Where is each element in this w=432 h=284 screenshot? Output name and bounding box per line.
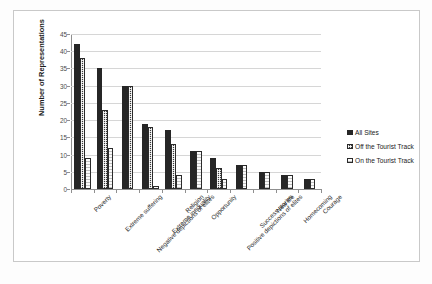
y-tick-label: 25 [45,99,67,106]
x-category-label: Extreme inequality [170,193,212,235]
bar [176,175,182,189]
legend-item[interactable]: On the Tourist Track [347,157,432,164]
legend-swatch-icon [347,144,353,150]
legend-item[interactable]: Off the Tourist Track [347,143,432,150]
y-tick-mark [67,68,70,69]
y-tick-mark [67,120,70,121]
legend-item[interactable]: All Sites [347,129,432,136]
y-tick-label: 0 [45,186,67,193]
bar-group [162,34,185,189]
y-tick-label: 45 [45,31,67,38]
bar-group [185,34,208,189]
bar [222,179,228,189]
y-tick-mark [67,189,70,190]
x-category-label: Positive depictions of elites [245,193,303,251]
x-category-label: Poverty [93,193,113,213]
x-category-label: Extreme suffering [123,193,163,233]
bar [310,179,316,189]
legend-label: On the Tourist Track [355,157,414,164]
x-axis-category-labels: PovertyExtreme sufferingNegative depicti… [71,193,321,265]
legend-swatch-icon [347,130,353,136]
chart-legend: All SitesOff the Tourist TrackOn the Tou… [347,129,432,171]
bar-group [276,34,299,189]
bar [108,148,114,189]
bar-group [94,34,117,189]
y-tick-mark [67,137,70,138]
bar-group [253,34,276,189]
bar [287,175,293,189]
y-tick-label: 10 [45,151,67,158]
bar-groups [71,34,321,189]
chart-frame: Number of Representations 05101520253035… [13,10,420,262]
bar-group [71,34,94,189]
legend-label: Off the Tourist Track [355,143,414,150]
y-tick-label: 40 [45,48,67,55]
bar [242,165,248,189]
legend-label: All Sites [355,129,379,136]
bar [128,86,134,189]
legend-swatch-icon [347,158,353,164]
chart-screenshot: Number of Representations 05101520253035… [0,0,432,284]
bar-group [298,34,321,189]
bar [85,158,91,189]
bar-group [116,34,139,189]
bar-group [207,34,230,189]
y-tick-mark [67,86,70,87]
bar [148,127,154,189]
y-axis-tick-labels: 051015202530354045 [43,34,67,190]
bar-group [139,34,162,189]
y-tick-mark [67,51,70,52]
y-tick-label: 30 [45,82,67,89]
x-tick-mark [321,189,322,193]
y-tick-label: 20 [45,117,67,124]
y-tick-mark [67,103,70,104]
y-tick-label: 15 [45,134,67,141]
y-tick-mark [67,172,70,173]
bar-group [230,34,253,189]
bar [196,151,202,189]
y-tick-label: 5 [45,168,67,175]
y-tick-label: 35 [45,65,67,72]
bar [264,172,270,189]
y-tick-mark [67,155,70,156]
y-tick-mark [67,34,70,35]
